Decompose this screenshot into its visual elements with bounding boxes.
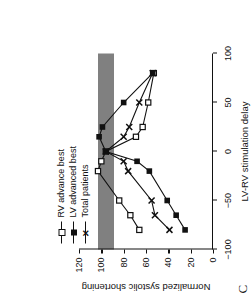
legend-key-cross-icon: ✕ bbox=[80, 221, 91, 243]
data-point-open-square bbox=[99, 158, 104, 163]
data-point-cross bbox=[121, 133, 127, 139]
legend-item-2: ✕Total patients bbox=[80, 146, 91, 243]
legend-item-0: RV advance best bbox=[56, 146, 67, 243]
data-point-filled-square bbox=[121, 99, 127, 105]
y-tick bbox=[124, 249, 125, 253]
y-axis-line bbox=[79, 248, 206, 249]
data-point-cross bbox=[125, 168, 131, 174]
y-tick-label: 40 bbox=[163, 257, 173, 267]
data-point-filled-square bbox=[100, 124, 106, 130]
data-point-open-square bbox=[95, 168, 100, 173]
series-line-2 bbox=[106, 73, 170, 230]
data-point-open-square bbox=[146, 99, 151, 104]
data-point-cross bbox=[126, 124, 132, 130]
series-group bbox=[95, 70, 188, 233]
data-point-filled-square bbox=[173, 212, 179, 218]
data-point-filled-square bbox=[96, 134, 102, 140]
legend-key-open-square-icon bbox=[56, 221, 67, 243]
legend-label: Total patients bbox=[80, 164, 91, 217]
data-point-filled-square bbox=[182, 227, 188, 233]
data-point-open-square bbox=[117, 197, 122, 202]
series-layer bbox=[79, 53, 206, 249]
y-axis-title: Normalized systolic shortening bbox=[82, 282, 206, 293]
data-point-filled-square bbox=[134, 158, 140, 164]
y-tick-label: 120 bbox=[74, 257, 84, 272]
data-point-cross bbox=[136, 99, 142, 105]
data-point-open-square bbox=[140, 124, 145, 129]
y-tick bbox=[168, 249, 169, 253]
legend-marker-filled-square-icon bbox=[71, 229, 77, 235]
plot-area: −100−50050100 020406080100120 LV-RV stim… bbox=[79, 53, 206, 249]
legend-label: RV advance best bbox=[56, 149, 67, 217]
data-point-filled-square bbox=[147, 168, 153, 174]
y-tick bbox=[146, 249, 147, 253]
y-tick-label: 80 bbox=[119, 257, 129, 267]
y-tick-label: 60 bbox=[141, 257, 151, 267]
data-point-filled-square bbox=[164, 197, 170, 203]
y-tick-label: 100 bbox=[96, 257, 106, 272]
figure-root: C −100−50050100 020406080100120 LV-RV st… bbox=[57, 0, 206, 295]
y-tick bbox=[79, 249, 80, 253]
data-point-open-square bbox=[128, 212, 133, 217]
legend-key-filled-square-icon bbox=[68, 221, 79, 243]
legend-marker-open-square-icon bbox=[58, 229, 65, 236]
data-point-open-square bbox=[133, 134, 138, 139]
legend-marker-cross-icon: ✕ bbox=[81, 228, 90, 237]
y-tick bbox=[101, 249, 102, 253]
legend-item-1: LV advanced best bbox=[68, 146, 79, 243]
chart-legend: RV advance bestLV advanced best✕Total pa… bbox=[56, 146, 91, 243]
data-point-open-square bbox=[137, 227, 142, 232]
y-tick bbox=[191, 249, 192, 253]
legend-label: LV advanced best bbox=[68, 146, 79, 217]
data-point-cross bbox=[121, 158, 127, 164]
data-point-cross bbox=[166, 226, 172, 232]
data-point-cross bbox=[152, 212, 158, 218]
y-tick-label: 20 bbox=[186, 257, 196, 267]
